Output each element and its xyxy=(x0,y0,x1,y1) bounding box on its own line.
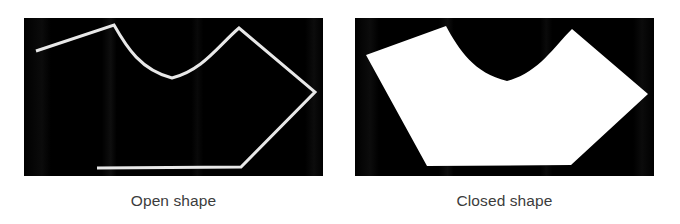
panel-closed-shape xyxy=(355,18,654,176)
closed-shape-canvas xyxy=(355,18,654,176)
caption-closed-shape: Closed shape xyxy=(355,193,654,209)
scan-banding-overlay xyxy=(24,18,323,176)
panel-open-shape xyxy=(24,18,323,176)
caption-open-shape: Open shape xyxy=(24,193,323,209)
figure-root: Open shape xyxy=(0,0,680,224)
open-shape-canvas xyxy=(24,18,323,176)
